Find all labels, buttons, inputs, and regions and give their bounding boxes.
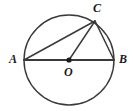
chord-cb xyxy=(95,21,114,60)
circle-geometry-figure: A B C O xyxy=(0,0,137,111)
chord-ac xyxy=(24,21,95,60)
point-label-c: C xyxy=(93,2,101,14)
radius-oc xyxy=(69,21,95,60)
point-label-o: O xyxy=(64,66,73,78)
point-label-b: B xyxy=(119,53,127,65)
geometry-canvas xyxy=(0,0,137,111)
center-point-dot xyxy=(66,57,71,62)
point-label-a: A xyxy=(9,53,17,65)
